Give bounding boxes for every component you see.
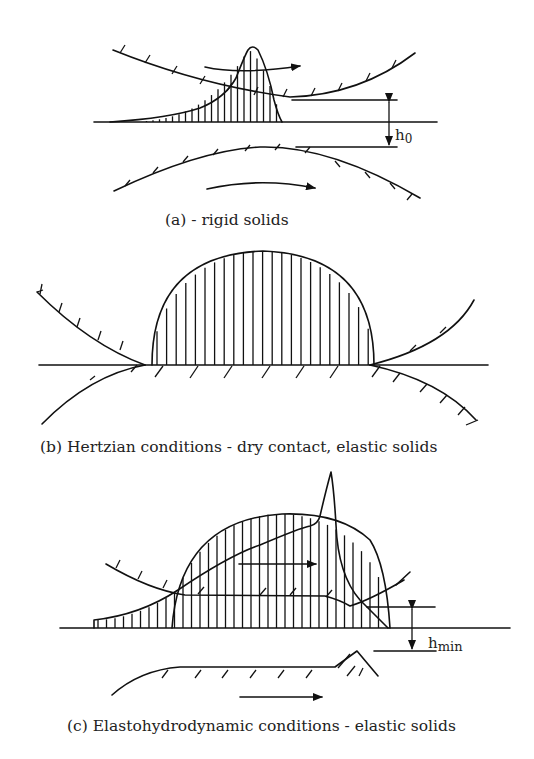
- pressure-hatching: [157, 251, 368, 365]
- upper-surface-end: [396, 572, 410, 585]
- panel-c-ehd: hmin (c) Elastohydrodynamic conditions -…: [60, 472, 510, 735]
- gap-label-h0: h0: [395, 126, 412, 146]
- upper-motion-arrow: [205, 66, 300, 71]
- surface-hatching: [37, 284, 478, 425]
- lubrication-regimes-diagram: h0 (a) - rigid solids: [0, 0, 534, 759]
- pressure-hatching: [147, 51, 277, 122]
- pressure-hatching: [98, 514, 379, 628]
- panel-a-rigid-solids: h0 (a) - rigid solids: [94, 45, 437, 229]
- lower-surface: [114, 147, 420, 198]
- upper-left-surface: [37, 292, 145, 365]
- caption-b: (b) Hertzian conditions - dry contact, e…: [40, 438, 437, 456]
- caption-a: (a) - rigid solids: [165, 211, 289, 229]
- lower-motion-arrow: [207, 183, 315, 189]
- lower-surface-hatching: [162, 654, 363, 678]
- upper-right-surface: [370, 300, 474, 365]
- upper-surface-hatching: [116, 560, 332, 597]
- panel-b-hertzian: (b) Hertzian conditions - dry contact, e…: [37, 251, 488, 456]
- caption-c: (c) Elastohydrodynamic conditions - elas…: [67, 717, 456, 735]
- hertzian-envelope: [172, 514, 390, 628]
- gap-label-hmin: hmin: [428, 634, 463, 654]
- lower-left-surface: [42, 365, 145, 424]
- lower-elastic-surface: [112, 651, 378, 695]
